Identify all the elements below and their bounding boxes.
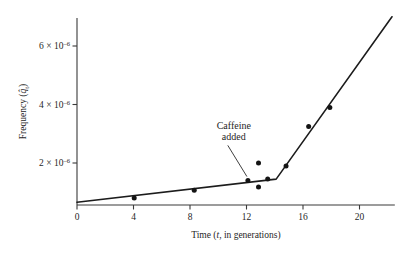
x-tick-label-8: 8: [188, 212, 193, 222]
x-tick-label-4: 4: [131, 212, 136, 222]
data-point-8: [327, 105, 332, 110]
y-axis-title: Frequency (q̂t): [18, 84, 30, 139]
x-axis-title: Time (t, in generations): [191, 230, 280, 241]
y-tick-label-1: 4 × 10–6: [39, 99, 71, 110]
x-tick-label-0: 0: [75, 212, 80, 222]
data-point-5: [265, 177, 270, 182]
caffeine-added-annotation: Caffeine added: [217, 120, 252, 176]
y-tick-label-2: 6 × 10–6: [39, 40, 71, 51]
x-tick-label-20: 20: [355, 212, 365, 222]
x-axis-ticks: [77, 205, 360, 210]
data-point-3: [256, 161, 261, 166]
annotation-leader-line: [228, 145, 247, 176]
y-tick-label-0: 2 × 10–6: [39, 157, 71, 168]
data-point-0: [132, 196, 137, 201]
annotation-line-1: Caffeine: [217, 120, 252, 131]
fitted-line: [77, 17, 392, 202]
y-axis-ticks: [73, 46, 78, 163]
axes-group: [77, 18, 395, 205]
data-point-4: [256, 184, 261, 189]
x-tick-label-12: 12: [242, 212, 252, 222]
x-axis-tick-labels: 048121620: [75, 212, 365, 222]
svg-text:Time (t, in generations): Time (t, in generations): [191, 230, 280, 241]
frequency-vs-time-chart: 048121620 2 × 10–64 × 10–66 × 10–6 Caffe…: [0, 0, 413, 256]
svg-text:Frequency (q̂t): Frequency (q̂t): [18, 84, 30, 139]
annotation-line-2: added: [222, 131, 246, 142]
figure-container: 048121620 2 × 10–64 × 10–66 × 10–6 Caffe…: [0, 0, 413, 256]
data-point-6: [284, 163, 289, 168]
data-point-1: [192, 188, 197, 193]
data-point-2: [245, 178, 250, 183]
y-axis-tick-labels: 2 × 10–64 × 10–66 × 10–6: [39, 40, 71, 168]
data-point-7: [306, 124, 311, 129]
x-tick-label-16: 16: [298, 212, 308, 222]
